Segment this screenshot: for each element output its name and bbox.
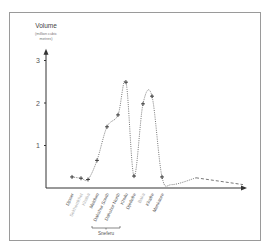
data-point-marker [86, 178, 90, 182]
group-bracket-label: Sneferu [98, 231, 115, 236]
data-point-marker [132, 174, 136, 178]
data-point-marker [116, 113, 120, 117]
volume-chart: Volume(million cubicmetres)123DjoserSekh… [0, 0, 273, 251]
data-point-marker [150, 94, 154, 98]
y-axis-title: Volume [35, 22, 57, 29]
group-bracket [92, 226, 120, 230]
x-axis-arrow [241, 186, 247, 191]
y-axis-arrow [44, 49, 49, 55]
y-tick-label: 2 [36, 100, 40, 107]
data-point-marker [124, 80, 128, 84]
data-point-marker [160, 175, 164, 179]
data-point-marker [70, 175, 74, 179]
volume-series-line [72, 80, 196, 186]
data-point-marker [79, 176, 83, 180]
data-point-marker [105, 125, 109, 129]
y-axis-subtitle: (million cubic [35, 32, 57, 36]
y-tick-label: 3 [36, 57, 40, 64]
y-tick-label: 1 [36, 142, 40, 149]
data-point-marker [95, 158, 99, 162]
y-axis-subtitle: metres) [40, 37, 54, 41]
x-tick-label: Khafre [145, 192, 155, 207]
volume-series-tail [196, 178, 243, 185]
data-point-marker [141, 102, 145, 106]
